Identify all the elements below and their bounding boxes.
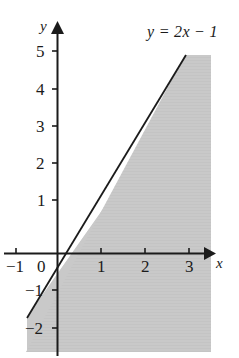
x-tick-label-minus-1: −1 xyxy=(6,258,24,275)
y-tick-label-3: 3 xyxy=(36,118,45,135)
x-tick-label-3: 3 xyxy=(185,258,194,275)
y-tick-label-5: 5 xyxy=(36,43,45,60)
x-axis-label: x xyxy=(216,256,223,271)
shade-texture xyxy=(20,50,220,355)
x-tick-label-2: 2 xyxy=(141,258,150,275)
y-tick-label-minus-1: −1 xyxy=(25,282,43,299)
y-tick-label-4: 4 xyxy=(36,81,45,98)
y-tick-label-2: 2 xyxy=(36,155,45,172)
y-axis-label: y xyxy=(40,19,47,34)
graph-figure: y x y = 2x − 1 5 4 3 2 1 −1 −2 −1 0 1 2 … xyxy=(0,0,239,358)
x-tick-label-0: 0 xyxy=(37,258,46,275)
y-tick-label-1: 1 xyxy=(37,192,46,209)
equation-annotation: y = 2x − 1 xyxy=(147,24,218,40)
y-tick-label-minus-2: −2 xyxy=(25,320,43,337)
x-tick-label-1: 1 xyxy=(97,258,106,275)
